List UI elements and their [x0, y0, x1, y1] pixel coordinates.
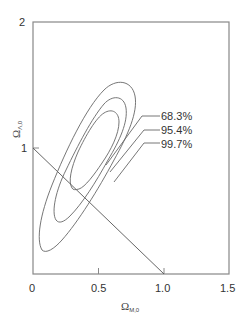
label-99.7: 99.7%: [161, 138, 192, 150]
y-axis-title: ΩΛ,0: [10, 120, 23, 138]
flat-universe-line: [33, 148, 164, 274]
x-tick-label-0.5: 0.5: [91, 282, 106, 294]
svg-text:ΩM,0: ΩM,0: [121, 300, 140, 313]
x-tick-label-0: 0: [29, 282, 35, 294]
contour-99.7: [39, 82, 135, 251]
contour-68.3: [70, 111, 119, 190]
x-tick-label-1.5: 1.5: [220, 282, 235, 294]
leader-99.7: [114, 143, 160, 182]
label-68.3: 68.3%: [161, 110, 192, 122]
x-axis-title: ΩM,0: [121, 300, 140, 313]
y-tick-label-2: 2: [19, 16, 25, 28]
svg-text:ΩΛ,0: ΩΛ,0: [10, 120, 23, 138]
confidence-contour-chart: 0 0.5 1.0 1.5 1 2 ΩM,0 ΩΛ,0 68.3% 95.4% …: [0, 0, 245, 325]
y-tick-label-1: 1: [21, 142, 27, 154]
label-95.4: 95.4%: [161, 124, 192, 136]
x-tick-label-1.0: 1.0: [155, 282, 170, 294]
leader-95.4: [110, 130, 160, 172]
plot-frame: [33, 22, 229, 274]
